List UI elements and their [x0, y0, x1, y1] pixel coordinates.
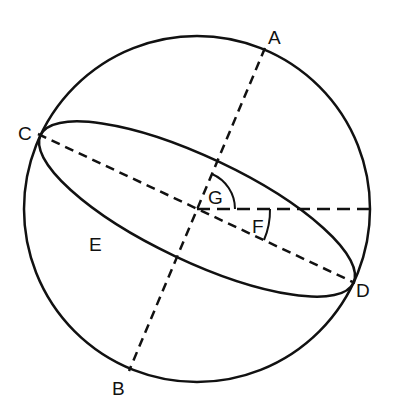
label-B: B	[112, 378, 125, 399]
label-A: A	[268, 27, 281, 48]
label-E: E	[89, 234, 102, 255]
angle-F-arc	[264, 209, 270, 240]
label-C: C	[18, 123, 32, 144]
label-D: D	[356, 280, 370, 301]
label-F: F	[252, 216, 264, 237]
sphere-diagram: A B C D E G F	[0, 0, 394, 417]
label-G: G	[208, 187, 223, 208]
